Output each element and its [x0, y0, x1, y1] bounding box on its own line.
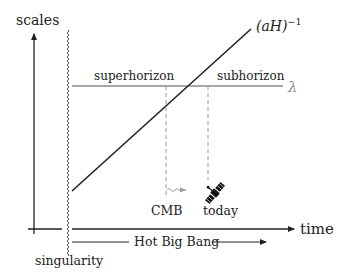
wavy-arrow-icon	[167, 189, 186, 192]
cmb-label: CMB	[151, 203, 183, 218]
satellite-icon	[199, 177, 226, 205]
wavelength-label: λ	[287, 78, 298, 96]
hot-big-bang-label: Hot Big Bang	[134, 234, 219, 249]
singularity-line: singularity	[35, 30, 104, 268]
cosmology-scales-diagram: scales time singularity Hot Big Bang λ s…	[0, 0, 348, 275]
hot-big-bang-arrow: Hot Big Bang	[72, 234, 266, 249]
superhorizon-label: superhorizon	[94, 69, 174, 83]
today-label: today	[203, 203, 239, 218]
y-axis-label: scales	[16, 12, 59, 28]
x-axis-label: time	[300, 220, 334, 238]
subhorizon-label: subhorizon	[217, 69, 285, 83]
y-axis: scales	[16, 12, 59, 234]
hubble-radius-line: (aH)−1	[72, 16, 302, 191]
hubble-radius-label: (aH)−1	[256, 16, 302, 34]
singularity-label: singularity	[35, 253, 104, 268]
